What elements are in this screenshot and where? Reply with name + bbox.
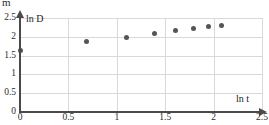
gridline-vertical	[165, 18, 166, 112]
gridline-horizontal	[20, 56, 262, 57]
gridline-vertical	[262, 18, 263, 112]
gridline-vertical	[214, 18, 215, 112]
scatter-plot-figure: m ln D ln t 00.511.522.500.511.522.5	[0, 0, 269, 125]
x-tick-label: 0	[5, 113, 35, 123]
data-point	[152, 31, 157, 36]
data-point	[191, 26, 196, 31]
gridline-horizontal	[20, 18, 262, 19]
x-axis-label: ln t	[236, 94, 249, 104]
x-tick-label: 1	[102, 113, 132, 123]
data-point	[219, 23, 224, 28]
y-tick-label: 2	[0, 32, 16, 42]
plot-area	[20, 18, 262, 112]
x-tick-label: 0.5	[53, 113, 83, 123]
gridline-horizontal	[20, 93, 262, 94]
y-axis-arrow-icon	[16, 10, 24, 18]
y-tick-label: 1	[0, 69, 16, 79]
gridline-vertical	[117, 18, 118, 112]
x-axis-label-text: ln t	[236, 93, 249, 104]
data-point	[206, 24, 211, 29]
y-axis-line	[19, 16, 21, 113]
x-tick-label: 2.5	[247, 113, 269, 123]
gridline-horizontal	[20, 74, 262, 75]
x-tick-label: 1.5	[150, 113, 180, 123]
y-tick-label: 1.5	[0, 51, 16, 61]
data-point	[84, 39, 89, 44]
gridline-vertical	[68, 18, 69, 112]
cropped-text-fragment: m	[2, 0, 22, 6]
x-tick-label: 2	[199, 113, 229, 123]
y-tick-label: 0.5	[0, 88, 16, 98]
gridline-horizontal	[20, 37, 262, 38]
y-tick-label: 2.5	[0, 13, 16, 23]
data-point	[124, 35, 129, 40]
y-axis-label: ln D	[26, 14, 44, 24]
data-point	[173, 28, 178, 33]
y-axis-label-text: ln D	[26, 13, 44, 24]
